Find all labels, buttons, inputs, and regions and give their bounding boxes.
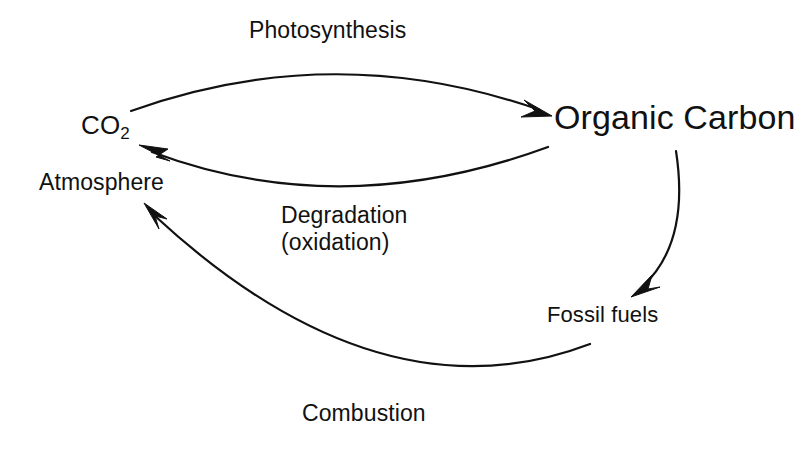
node-label-organic-carbon: Organic Carbon: [554, 100, 795, 136]
photosynthesis-arrowhead: [521, 100, 552, 117]
edge-label-degradation: Degradation(oxidation): [281, 203, 407, 254]
burial-arrowhead: [631, 275, 660, 297]
burial-arc: [643, 151, 679, 286]
photosynthesis-arc: [131, 74, 540, 111]
co2-subscript: 2: [120, 124, 130, 143]
edge-burial: [631, 151, 679, 297]
carbon-cycle-diagram: CO2 Atmosphere Organic Carbon Fossil fue…: [0, 0, 809, 449]
degradation-line-2: (oxidation): [281, 230, 407, 254]
degradation-arc: [152, 147, 548, 186]
edge-photosynthesis: [131, 74, 552, 117]
co2-formula-text: CO: [81, 110, 120, 140]
node-label-co2: CO2: [81, 112, 130, 139]
degradation-line-1: Degradation: [281, 202, 407, 228]
edge-label-combustion: Combustion: [302, 401, 426, 425]
edge-label-photosynthesis: Photosynthesis: [249, 18, 406, 42]
edge-degradation: [139, 145, 548, 186]
degradation-arrowhead: [139, 145, 170, 161]
node-label-fossil-fuels: Fossil fuels: [547, 303, 658, 326]
node-label-atmosphere: Atmosphere: [39, 170, 164, 194]
